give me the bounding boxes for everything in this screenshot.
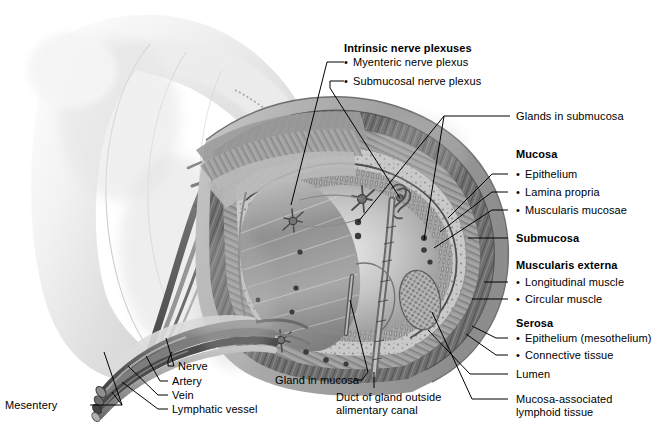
label-serosa-epithelium: Epithelium (mesothelium)	[516, 332, 652, 345]
label-nerve: Nerve	[178, 360, 208, 373]
label-vein: Vein	[172, 389, 194, 402]
anatomy-figure: Intrinsic nerve plexuses Myenteric nerve…	[0, 0, 661, 433]
label-lamina-propria: Lamina propria	[516, 186, 600, 199]
label-gland-in-mucosa: Gland in mucosa	[275, 374, 359, 387]
label-muscularis-externa-heading: Muscularis externa	[516, 259, 617, 272]
label-mesentery: Mesentery	[5, 399, 57, 412]
label-submucosal-nerve-plexus: Submucosal nerve plexus	[344, 75, 481, 88]
label-serosa-heading: Serosa	[516, 317, 553, 330]
label-connective-tissue: Connective tissue	[516, 349, 614, 362]
label-myenteric-nerve-plexus: Myenteric nerve plexus	[344, 56, 468, 69]
label-malt-line2: lymphoid tissue	[516, 406, 593, 419]
label-malt-line1: Mucosa-associated	[516, 393, 612, 406]
label-muscularis-mucosae: Muscularis mucosae	[516, 204, 627, 217]
label-epithelium: Epithelium	[516, 168, 577, 181]
label-artery: Artery	[172, 375, 202, 388]
label-circular-muscle: Circular muscle	[516, 293, 602, 306]
label-lymphatic-vessel: Lymphatic vessel	[172, 403, 258, 416]
label-duct-line2: alimentary canal	[336, 404, 418, 417]
label-longitudinal-muscle: Longitudinal muscle	[516, 276, 624, 289]
label-glands-in-submucosa: Glands in submucosa	[516, 110, 624, 123]
label-lumen: Lumen	[516, 368, 550, 381]
label-submucosa-heading: Submucosa	[516, 232, 579, 245]
label-mucosa-heading: Mucosa	[516, 148, 558, 161]
label-intrinsic-nerve-plexuses: Intrinsic nerve plexuses	[344, 42, 472, 55]
label-duct-line1: Duct of gland outside	[336, 391, 441, 404]
